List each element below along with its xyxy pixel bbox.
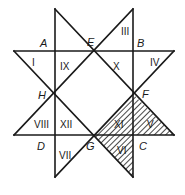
point-label-g: G: [86, 140, 95, 152]
region-label-xi: XI: [114, 119, 123, 130]
point-label-c: C: [139, 140, 147, 152]
point-label-e: E: [87, 36, 95, 48]
point-label-h: H: [38, 89, 46, 101]
region-label-xii: XII: [60, 119, 72, 130]
point-label-d: D: [37, 140, 45, 152]
star-diagram: A B C D E F G H I III IV V VI VII VIII I…: [0, 0, 185, 195]
region-label-iii: III: [121, 26, 129, 37]
region-label-ix: IX: [60, 61, 70, 72]
point-label-a: A: [39, 37, 47, 49]
region-label-viii: VIII: [34, 119, 49, 130]
point-label-f: F: [142, 88, 150, 100]
region-label-vii: VII: [59, 150, 71, 161]
region-label-v: V: [147, 119, 154, 130]
region-label-x: X: [113, 61, 120, 72]
region-label-iv: IV: [150, 57, 160, 68]
region-label-i: I: [32, 57, 35, 68]
region-label-vi: VI: [117, 145, 126, 156]
point-label-b: B: [137, 37, 144, 49]
